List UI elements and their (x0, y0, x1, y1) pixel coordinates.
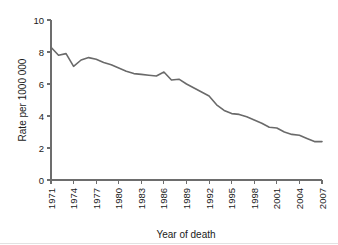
x-tick-label: 1986 (158, 188, 169, 209)
x-tick-label: 1971 (46, 188, 57, 209)
x-tick-label: 2004 (294, 188, 305, 209)
y-tick-label: 6 (39, 79, 44, 90)
x-tick-label: 1974 (68, 188, 79, 209)
y-tick-label: 10 (33, 15, 44, 26)
x-axis: 1971197419771980198319861989199219951998… (46, 180, 328, 209)
y-tick-label: 2 (39, 143, 44, 154)
x-tick-label: 2007 (317, 188, 328, 209)
x-axis-title-text: Year of death (156, 229, 215, 240)
y-axis-title-text: Rate per 1000 000 (17, 58, 28, 141)
line-chart: Rate per 1000 000 0246810 19711974197719… (0, 0, 338, 245)
chart-container: Rate per 1000 000 0246810 19711974197719… (0, 0, 338, 245)
y-tick-label: 8 (39, 47, 44, 58)
x-tick-label: 1992 (204, 188, 215, 209)
y-tick-group: 0246810 (33, 15, 51, 186)
y-axis-title: Rate per 1000 000 (17, 58, 28, 141)
series-line-rate (51, 47, 322, 141)
x-tick-label: 1995 (226, 188, 237, 209)
x-tick-label: 1983 (136, 188, 147, 209)
x-tick-label: 2001 (271, 188, 282, 209)
x-tick-label: 1989 (181, 188, 192, 209)
y-tick-label: 4 (39, 111, 44, 122)
x-tick-label: 1998 (249, 188, 260, 209)
x-tick-group: 1971197419771980198319861989199219951998… (46, 180, 328, 209)
series-group (51, 47, 322, 141)
y-tick-label: 0 (39, 175, 44, 186)
y-axis: 0246810 (33, 15, 51, 186)
x-tick-label: 1980 (113, 188, 124, 209)
x-tick-label: 1977 (91, 188, 102, 209)
